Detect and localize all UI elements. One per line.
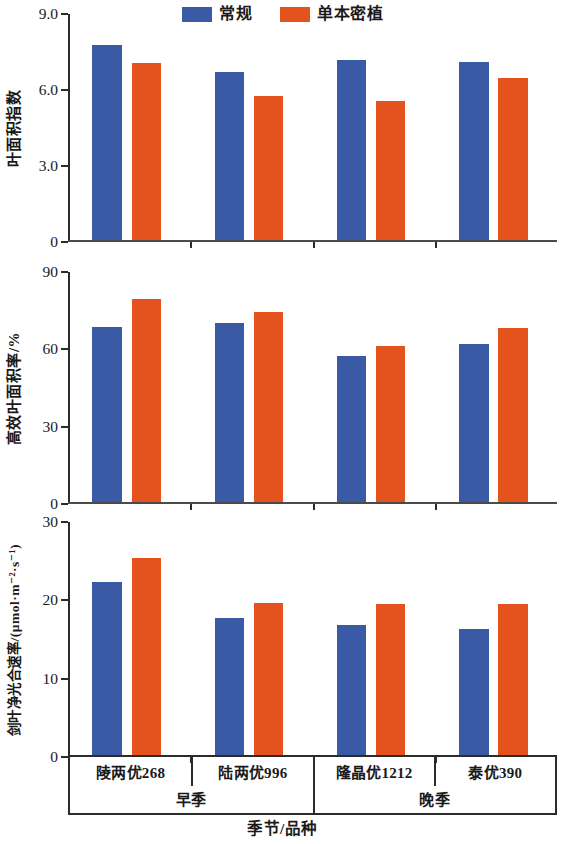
- x-tick-mark: [435, 242, 437, 248]
- y-tick-mark: [61, 348, 68, 350]
- y-tick-label: 10: [43, 670, 59, 688]
- x-axis-variety-cell: 陵两优268: [70, 757, 191, 786]
- bar-group: [190, 522, 312, 755]
- y-tick-mark: [61, 426, 68, 428]
- bar-dense: [376, 346, 405, 502]
- y-tick-mark: [61, 678, 68, 680]
- panel-leaf-area-index: 叶面积指数 03.06.09.0: [0, 14, 565, 242]
- x-axis-variety-row: 陵两优268陆两优996隆晶优1212泰优390: [68, 755, 557, 786]
- x-tick-mark: [313, 504, 315, 510]
- bar-dense: [132, 299, 161, 502]
- y-tick-label: 0: [50, 233, 58, 251]
- panel-c-bars: [68, 522, 557, 755]
- bar-dense: [254, 312, 283, 502]
- bar-group: [190, 272, 312, 502]
- x-tick-mark: [435, 504, 437, 510]
- y-tick-label: 90: [43, 263, 59, 281]
- bar-dense: [254, 96, 283, 240]
- bar-dense: [498, 328, 527, 502]
- panel-b-plot-area: 0306090: [68, 272, 557, 504]
- bar-group: [190, 14, 312, 240]
- bar-group: [313, 272, 435, 502]
- x-tick-mark: [190, 242, 192, 248]
- x-axis-season-row: 早季晚季: [68, 784, 557, 815]
- y-tick-mark: [61, 599, 68, 601]
- bar-regular: [215, 72, 244, 240]
- bar-regular: [215, 323, 244, 502]
- panel-a-plot-area: 03.06.09.0: [68, 14, 557, 242]
- panel-c-y-axis-label: 剑叶净光合速率/(μmol·m⁻²·s⁻¹): [0, 522, 26, 757]
- y-tick-mark: [61, 271, 68, 273]
- bar-regular: [337, 625, 366, 755]
- y-tick-label: 0: [50, 748, 58, 766]
- y-tick-mark: [61, 165, 68, 167]
- x-axis-season-cell: 早季: [70, 784, 313, 813]
- bar-group: [68, 272, 190, 502]
- panel-high-efficiency-leaf-area-rate: 高效叶面积率/% 0306090: [0, 272, 565, 504]
- bar-group: [313, 522, 435, 755]
- bar-regular: [459, 629, 488, 755]
- bar-dense: [498, 78, 527, 240]
- x-axis-title: 季节/品种: [0, 816, 565, 838]
- bar-regular: [92, 582, 121, 755]
- bar-dense: [376, 101, 405, 240]
- panel-a-y-axis-label: 叶面积指数: [0, 14, 26, 242]
- bar-regular: [215, 618, 244, 755]
- bar-dense: [498, 604, 527, 755]
- bar-regular: [92, 45, 121, 240]
- bar-group: [68, 14, 190, 240]
- bar-dense: [254, 603, 283, 755]
- y-tick-label: 0: [50, 495, 58, 513]
- y-tick-mark: [61, 89, 68, 91]
- bar-group: [68, 522, 190, 755]
- x-axis-season-cell: 晚季: [313, 784, 556, 813]
- y-tick-mark: [61, 13, 68, 15]
- panel-b-bars: [68, 272, 557, 502]
- y-tick-label: 6.0: [39, 81, 58, 99]
- x-axis-variety-cell: 陆两优996: [191, 757, 312, 786]
- y-tick-label: 30: [43, 513, 59, 531]
- y-tick-label: 9.0: [39, 5, 58, 23]
- bar-regular: [92, 327, 121, 502]
- panel-b-y-axis-label: 高效叶面积率/%: [0, 272, 26, 504]
- x-axis-variety-cell: 隆晶优1212: [313, 757, 434, 786]
- bar-dense: [132, 558, 161, 755]
- bar-regular: [459, 62, 488, 240]
- bar-dense: [376, 604, 405, 755]
- bar-regular: [337, 60, 366, 240]
- x-tick-mark: [313, 242, 315, 248]
- panel-flag-leaf-photosynthetic-rate: 剑叶净光合速率/(μmol·m⁻²·s⁻¹) 0102030: [0, 522, 565, 757]
- bar-group: [313, 14, 435, 240]
- x-tick-mark: [190, 504, 192, 510]
- y-tick-label: 20: [43, 591, 59, 609]
- bar-group: [435, 14, 557, 240]
- y-tick-label: 3.0: [39, 157, 58, 175]
- x-axis-label-table: 陵两优268陆两优996隆晶优1212泰优390 早季晚季: [68, 755, 557, 813]
- bar-dense: [132, 63, 161, 240]
- y-tick-mark: [61, 756, 68, 758]
- figure-container: 常规 单本密植 叶面积指数 03.06.09.0 高效叶面积率/% 030609…: [0, 0, 565, 844]
- bar-regular: [337, 356, 366, 502]
- bar-group: [435, 272, 557, 502]
- bar-group: [435, 522, 557, 755]
- y-tick-mark: [61, 241, 68, 243]
- bar-regular: [459, 344, 488, 502]
- y-tick-mark: [61, 521, 68, 523]
- x-axis-variety-cell: 泰优390: [434, 757, 555, 786]
- y-tick-label: 60: [43, 340, 59, 358]
- panel-c-plot-area: 0102030: [68, 522, 557, 757]
- panel-a-bars: [68, 14, 557, 240]
- y-tick-label: 30: [43, 418, 59, 436]
- y-tick-mark: [61, 503, 68, 505]
